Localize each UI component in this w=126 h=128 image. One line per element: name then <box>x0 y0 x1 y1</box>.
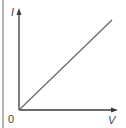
x-axis-arrow-icon <box>111 108 118 113</box>
x-axis-label: V <box>108 115 115 126</box>
y-axis-label: I <box>11 7 14 18</box>
series-line <box>19 20 112 110</box>
origin-label: 0 <box>8 114 14 125</box>
chart-plot-area <box>0 0 126 128</box>
y-axis-arrow-icon <box>17 8 22 15</box>
chart-figure: I 0 V <box>0 0 126 128</box>
